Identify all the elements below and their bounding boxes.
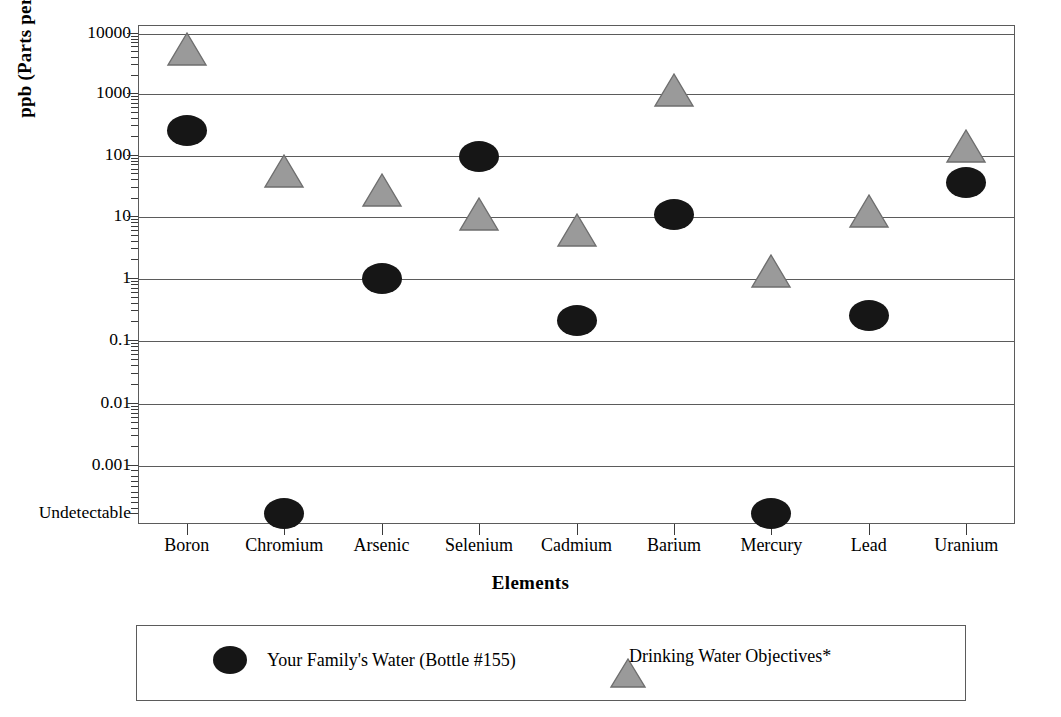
y-axis-minor-tick <box>131 241 138 242</box>
y-axis-minor-tick <box>131 492 138 493</box>
y-axis-minor-tick <box>131 112 138 113</box>
y-axis-minor-tick <box>131 219 138 220</box>
y-axis-minor-tick <box>131 99 138 100</box>
y-axis-minor-tick <box>131 173 138 174</box>
x-axis-tick <box>284 524 285 535</box>
y-axis-minor-tick <box>131 169 138 170</box>
y-axis-minor-tick <box>131 486 138 487</box>
legend-item-label: Drinking Water Objectives* <box>629 646 831 667</box>
y-axis-minor-tick <box>131 343 138 344</box>
gridline <box>139 94 1014 95</box>
legend-item-family-water[interactable]: Your Family's Water (Bottle #155) <box>213 646 516 674</box>
y-axis-major-tick <box>127 278 138 279</box>
y-axis-minor-tick <box>131 230 138 231</box>
y-axis-minor-tick <box>131 350 138 351</box>
y-axis-minor-tick <box>131 297 138 298</box>
x-axis-tick <box>869 524 870 535</box>
x-axis-tick-label-uranium: Uranium <box>886 535 1046 556</box>
y-axis-major-tick <box>127 216 138 217</box>
y-axis-tick-label: 1000 <box>8 84 138 102</box>
y-axis-minor-tick <box>131 51 138 52</box>
y-axis-minor-tick <box>131 75 138 76</box>
y-axis-minor-tick <box>131 435 138 436</box>
y-axis-minor-tick <box>131 365 138 366</box>
y-axis-minor-tick <box>131 235 138 236</box>
y-axis-major-tick <box>127 465 138 466</box>
y-axis-minor-tick <box>131 292 138 293</box>
y-axis-minor-tick <box>131 39 138 40</box>
gridline <box>139 279 1014 280</box>
y-axis-major-tick <box>127 155 138 156</box>
legend-item-drinking-water-objectives[interactable]: Drinking Water Objectives* <box>609 646 831 667</box>
y-axis-minor-tick <box>131 179 138 180</box>
y-axis-minor-tick <box>131 107 138 108</box>
y-axis-labels: 1000010001001010.10.010.001Undetectable <box>0 0 138 717</box>
x-axis-tick <box>771 524 772 535</box>
y-axis-tick-label: 0.01 <box>8 394 138 412</box>
gridline <box>139 404 1014 405</box>
y-axis-major-tick <box>127 93 138 94</box>
x-axis-tick <box>187 524 188 535</box>
y-axis-minor-tick <box>131 222 138 223</box>
y-axis-major-tick <box>127 340 138 341</box>
y-axis-minor-tick <box>131 57 138 58</box>
y-axis-major-tick <box>127 403 138 404</box>
y-axis-tick-label: 10 <box>8 207 138 225</box>
y-axis-tick-label: 0.1 <box>8 331 138 349</box>
y-axis-minor-tick <box>131 373 138 374</box>
gridline <box>139 341 1014 342</box>
x-axis-tick <box>382 524 383 535</box>
y-axis-minor-tick <box>131 281 138 282</box>
y-axis-minor-tick <box>131 446 138 447</box>
y-axis-minor-tick <box>131 354 138 355</box>
y-axis-minor-tick <box>131 248 138 249</box>
y-axis-minor-tick <box>131 103 138 104</box>
chart-container: ppb (Parts per Billion) 1000010001001010… <box>0 0 1061 717</box>
y-axis-minor-tick <box>131 284 138 285</box>
y-axis-minor-tick <box>131 36 138 37</box>
y-axis-minor-tick <box>131 64 138 65</box>
legend: Your Family's Water (Bottle #155) Drinki… <box>136 625 966 701</box>
gridline <box>139 156 1014 157</box>
y-axis-minor-tick <box>131 409 138 410</box>
y-axis-minor-tick <box>131 136 138 137</box>
ellipse-marker-icon <box>213 646 247 674</box>
y-axis-minor-tick <box>131 476 138 477</box>
y-axis-minor-tick <box>131 161 138 162</box>
y-axis-tick-label: 10000 <box>8 24 138 42</box>
y-axis-minor-tick <box>131 125 138 126</box>
y-axis-minor-tick <box>131 259 138 260</box>
y-axis-minor-tick <box>131 384 138 385</box>
x-axis-tick <box>674 524 675 535</box>
y-axis-minor-tick <box>131 118 138 119</box>
y-axis-minor-tick <box>131 417 138 418</box>
y-axis-minor-tick <box>131 187 138 188</box>
x-axis-title: Elements <box>0 572 1061 594</box>
gridline <box>139 466 1014 467</box>
legend-item-label: Your Family's Water (Bottle #155) <box>267 650 516 671</box>
gridline <box>139 34 1014 35</box>
y-axis-minor-tick <box>131 164 138 165</box>
y-axis-minor-tick <box>131 413 138 414</box>
y-axis-minor-tick <box>131 198 138 199</box>
y-axis-minor-tick <box>131 428 138 429</box>
y-axis-minor-tick <box>131 288 138 289</box>
y-axis-minor-tick <box>131 346 138 347</box>
y-axis-tick-label: 100 <box>8 146 138 164</box>
y-axis-minor-tick <box>131 226 138 227</box>
y-axis-minor-tick <box>131 46 138 47</box>
y-axis-minor-tick <box>131 321 138 322</box>
y-axis-minor-tick <box>131 96 138 97</box>
y-axis-minor-tick <box>131 303 138 304</box>
y-axis-minor-tick <box>131 158 138 159</box>
y-axis-minor-tick <box>131 481 138 482</box>
y-axis-tick-label: 1 <box>8 269 138 287</box>
y-axis-tick-label: Undetectable <box>8 504 138 522</box>
y-axis-major-tick <box>127 513 138 514</box>
gridline <box>139 217 1014 218</box>
y-axis-minor-tick <box>131 42 138 43</box>
y-axis-minor-tick <box>131 406 138 407</box>
x-axis-tick <box>577 524 578 535</box>
x-axis-tick <box>966 524 967 535</box>
y-axis-minor-tick <box>131 470 138 471</box>
